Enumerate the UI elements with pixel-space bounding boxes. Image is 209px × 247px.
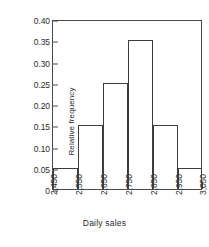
histogram-bar — [53, 168, 78, 189]
x-axis-title: Daily sales — [0, 218, 209, 228]
histogram-bar — [128, 40, 153, 189]
plot-area: Relative frequency 0 0.05 0.10 0.15 0.20… — [52, 20, 202, 190]
y-tick-label: 0.40 — [34, 16, 50, 26]
y-tick-mark — [53, 42, 58, 43]
y-tick-mark — [53, 84, 58, 85]
y-tick-label: 0.05 — [34, 165, 50, 175]
y-tick-label: 0.10 — [34, 144, 50, 154]
histogram-bar — [153, 125, 178, 189]
y-tick-mark — [53, 21, 58, 22]
histogram-bar — [178, 168, 202, 189]
y-tick-mark — [53, 148, 58, 149]
histogram-bar — [78, 125, 103, 189]
histogram-figure: Relative frequency 0 0.05 0.10 0.15 0.20… — [0, 0, 209, 247]
y-tick-label: 0.20 — [34, 101, 50, 111]
y-tick-label: 0.35 — [34, 37, 50, 47]
y-axis-title: Relative frequency — [67, 67, 76, 177]
y-tick-mark — [53, 106, 58, 107]
y-tick-label: 0.25 — [34, 80, 50, 90]
y-tick-label: 0.15 — [34, 122, 50, 132]
y-tick-label: 0.30 — [34, 59, 50, 69]
histogram-bar — [103, 83, 128, 189]
y-tick-mark — [53, 63, 58, 64]
y-tick-mark — [53, 127, 58, 128]
